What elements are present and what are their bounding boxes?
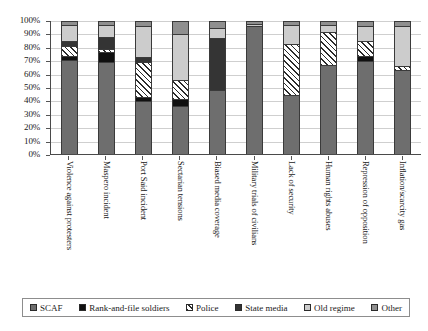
x-tick-mark <box>68 156 69 160</box>
y-tick-label: 20% <box>0 123 40 132</box>
x-tick-label: Lack of security <box>287 161 296 215</box>
x-label-slot: Human rights abuses <box>320 161 337 288</box>
legend-item[interactable]: State media <box>235 303 287 313</box>
x-label-slot: Military trials of civilians <box>246 161 263 288</box>
bar-column[interactable] <box>172 21 189 154</box>
bar-segment[interactable] <box>283 44 300 96</box>
y-tick-label: 30% <box>0 110 40 119</box>
legend-swatch-icon <box>30 304 37 311</box>
legend-swatch-icon <box>186 304 193 311</box>
legend-swatch-icon <box>371 304 378 311</box>
bar-column[interactable] <box>209 21 226 154</box>
bar-column[interactable] <box>246 21 263 154</box>
bar-segment[interactable] <box>209 90 226 154</box>
x-label-slot: Biased media coverage <box>208 161 225 288</box>
x-tick-mark <box>142 156 143 160</box>
y-tick-label: 90% <box>0 29 40 38</box>
legend-swatch-icon <box>304 304 311 311</box>
bar-segment[interactable] <box>394 70 411 154</box>
y-tick-label: 10% <box>0 137 40 146</box>
bar-segment[interactable] <box>394 26 411 66</box>
bar-segment[interactable] <box>209 28 226 39</box>
bar-segment[interactable] <box>172 34 189 79</box>
legend-label: Old regime <box>314 303 355 313</box>
legend-item[interactable]: Police <box>186 303 219 313</box>
x-tick-mark <box>179 156 180 160</box>
bar-segment[interactable] <box>98 62 115 154</box>
x-tick-label: Maspero incident <box>101 161 110 219</box>
stacked-bar-chart: 0%10%20%30%40%50%60%70%80%90%100% Violen… <box>0 0 428 331</box>
bar-column[interactable] <box>394 21 411 154</box>
bar-segment[interactable] <box>135 62 152 97</box>
bar-segment[interactable] <box>246 26 263 154</box>
legend-label: State media <box>245 303 287 313</box>
x-tick-mark <box>328 156 329 160</box>
bar-segment[interactable] <box>209 38 226 90</box>
x-label-slot: Lack of security <box>283 161 300 288</box>
legend-item[interactable]: SCAF <box>30 303 63 313</box>
bar-segment[interactable] <box>172 80 189 100</box>
x-tick-label: Repression of opposition <box>361 161 370 244</box>
bar-segment[interactable] <box>135 101 152 154</box>
bar-column[interactable] <box>320 21 337 154</box>
x-tick-label: Inflation/scarcity gas <box>398 161 407 230</box>
legend-swatch-icon <box>235 304 242 311</box>
legend-label: Rank-and-file soldiers <box>89 303 169 313</box>
x-label-slot: Port Said incident <box>134 161 151 288</box>
x-tick-mark <box>216 156 217 160</box>
legend-item[interactable]: Other <box>371 303 402 313</box>
x-tick-mark <box>254 156 255 160</box>
y-tick-label: 70% <box>0 56 40 65</box>
bar-segment[interactable] <box>98 25 115 37</box>
bar-segment[interactable] <box>61 46 78 55</box>
bar-segment[interactable] <box>61 25 78 41</box>
x-axis: Violence against protestersMaspero incid… <box>50 156 421 288</box>
x-label-slot: Inflation/scarcity gas <box>394 161 411 288</box>
x-tick-label: Sectarian tensions <box>175 161 184 221</box>
x-label-slot: Sectarian tensions <box>171 161 188 288</box>
x-tick-label: Port Said incident <box>138 161 147 220</box>
y-tick-label: 100% <box>0 16 40 25</box>
y-tick-label: 40% <box>0 96 40 105</box>
bar-column[interactable] <box>135 21 152 154</box>
bar-column[interactable] <box>357 21 374 154</box>
legend-swatch-icon <box>79 304 86 311</box>
bar-segment[interactable] <box>172 106 189 154</box>
y-axis: 0%10%20%30%40%50%60%70%80%90%100% <box>0 0 44 160</box>
bar-segment[interactable] <box>357 41 374 56</box>
legend-item[interactable]: Old regime <box>304 303 355 313</box>
bar-segment[interactable] <box>98 52 115 63</box>
bar-column[interactable] <box>61 21 78 154</box>
y-tick-label: 60% <box>0 70 40 79</box>
plot-wrapper: 0%10%20%30%40%50%60%70%80%90%100% <box>0 0 428 160</box>
x-label-slot: Repression of opposition <box>357 161 374 288</box>
y-tick-label: 0% <box>0 150 40 159</box>
bar-segment[interactable] <box>98 37 115 49</box>
bar-segment[interactable] <box>357 61 374 154</box>
bar-segment[interactable] <box>357 26 374 41</box>
bar-segment[interactable] <box>209 21 226 28</box>
x-tick-label: Violence against protesters <box>64 161 73 250</box>
x-tick-label: Military trials of civilians <box>250 161 259 245</box>
bar-segment[interactable] <box>320 65 337 154</box>
bar-segment[interactable] <box>283 95 300 154</box>
bar-segment[interactable] <box>135 26 152 57</box>
legend-label: Other <box>381 303 402 313</box>
x-tick-label: Biased media coverage <box>212 161 221 238</box>
legend-label: SCAF <box>40 303 63 313</box>
x-tick-mark <box>402 156 403 160</box>
chart-legend: SCAFRank-and-file soldiersPoliceState me… <box>22 298 410 317</box>
bar-column[interactable] <box>98 21 115 154</box>
bar-segment[interactable] <box>61 60 78 154</box>
x-label-slot: Violence against protesters <box>60 161 77 288</box>
plot-area <box>50 21 421 155</box>
x-tick-mark <box>291 156 292 160</box>
y-tick-label: 50% <box>0 83 40 92</box>
bar-segment[interactable] <box>172 21 189 34</box>
legend-item[interactable]: Rank-and-file soldiers <box>79 303 169 313</box>
bar-segment[interactable] <box>172 99 189 106</box>
bar-column[interactable] <box>283 21 300 154</box>
bar-segment[interactable] <box>320 32 337 65</box>
bar-segment[interactable] <box>283 25 300 44</box>
bar-segment[interactable] <box>320 25 337 32</box>
